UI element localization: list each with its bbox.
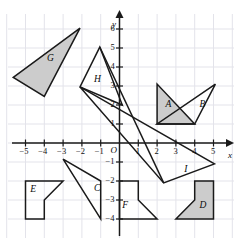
x-tick-label: −5 (20, 146, 29, 156)
shape-label-h: H (94, 74, 101, 84)
shape-label-i: I (184, 164, 187, 174)
shape-label-d: D (199, 200, 206, 210)
y-tick-label: 6 (111, 23, 115, 33)
y-tick-label: 4 (111, 61, 115, 71)
shape-label-f: F (122, 200, 128, 210)
x-tick-label: −1 (95, 146, 104, 156)
y-tick-label: 2 (111, 99, 115, 109)
shape-label-a: A (166, 99, 172, 109)
origin-label: O (111, 145, 118, 155)
x-axis-name: x (228, 150, 232, 160)
x-tick-label: 1 (136, 146, 140, 156)
y-tick-label: 5 (111, 42, 115, 52)
y-tick-label: −1 (106, 156, 115, 166)
x-tick-label: 2 (155, 146, 159, 156)
y-axis-arrowhead (116, 10, 124, 18)
y-tick-label: −4 (106, 213, 115, 223)
x-tick-label: 3 (173, 146, 177, 156)
x-tick-label: −2 (76, 146, 85, 156)
y-tick-label: −2 (106, 175, 115, 185)
coordinate-plane-figure: xyO−5−4−3−2−112345654321−1−2−3−4ABDCEFGH… (0, 0, 239, 246)
x-tick-label: 4 (192, 146, 196, 156)
shape-label-b: B (199, 99, 205, 109)
y-tick-label: 3 (111, 80, 115, 90)
shape-label-c: C (94, 183, 100, 193)
y-tick-label: −3 (106, 194, 115, 204)
x-tick-label: 5 (211, 146, 215, 156)
x-tick-label: −4 (38, 146, 47, 156)
shape-label-g: G (47, 53, 54, 63)
y-tick-label: 1 (111, 118, 115, 128)
shape-label-e: E (30, 184, 36, 194)
x-tick-label: −3 (57, 146, 66, 156)
